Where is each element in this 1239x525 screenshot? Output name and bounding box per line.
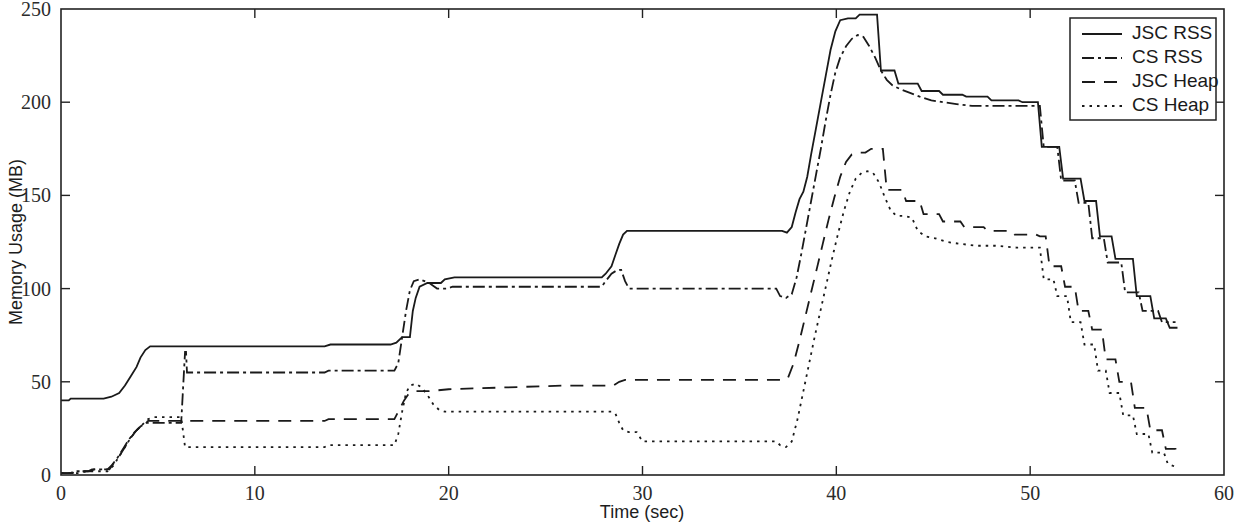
plot-frame	[61, 9, 1224, 475]
x-tick-label: 0	[56, 482, 66, 504]
x-tick-label: 10	[245, 482, 265, 504]
y-tick-label: 250	[21, 0, 51, 20]
y-tick-label: 200	[21, 91, 51, 113]
x-tick-label: 50	[1020, 482, 1040, 504]
legend-label: CS RSS	[1132, 46, 1203, 67]
y-axis-title: Memory Usage (MB)	[6, 159, 26, 325]
y-tick-label: 50	[31, 371, 51, 393]
memory-usage-chart-figure: 050100150200250 0102030405060 Memory Usa…	[0, 0, 1239, 525]
x-tick-label: 30	[633, 482, 653, 504]
series-line-jsc-rss	[61, 15, 1177, 401]
data-series-group	[61, 15, 1177, 474]
x-axis-tick-group: 0102030405060	[56, 9, 1234, 504]
y-tick-label: 0	[41, 464, 51, 486]
x-axis-title: Time (sec)	[600, 502, 684, 522]
legend-label: CS Heap	[1132, 94, 1209, 115]
series-line-cs-heap	[61, 171, 1177, 473]
x-tick-label: 20	[439, 482, 459, 504]
y-axis-tick-group: 050100150200250	[21, 0, 1224, 486]
legend-label: JSC Heap	[1132, 70, 1219, 91]
chart-canvas: 050100150200250 0102030405060 Memory Usa…	[0, 0, 1239, 525]
chart-legend[interactable]: JSC RSSCS RSSJSC HeapCS Heap	[1070, 18, 1219, 120]
x-tick-label: 40	[826, 482, 846, 504]
x-tick-label: 60	[1214, 482, 1234, 504]
series-line-jsc-heap	[61, 149, 1177, 473]
legend-label: JSC RSS	[1132, 22, 1212, 43]
